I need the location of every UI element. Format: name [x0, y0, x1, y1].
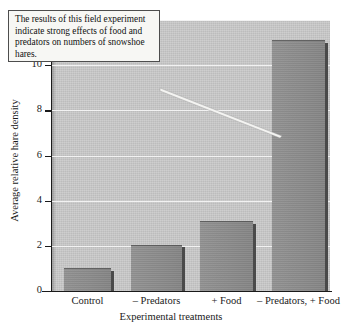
y-axis-tick: [45, 110, 52, 111]
bar-chart-figure: 024681012 Control– Predators+ Food– Pred…: [0, 0, 342, 330]
bar-top-edge: [272, 40, 325, 41]
bar-face: [272, 40, 325, 291]
x-axis-title: Experimental treatments: [0, 311, 342, 322]
bar: [131, 245, 182, 291]
bar-side-shadow: [253, 224, 256, 292]
bar-top-edge: [200, 221, 253, 222]
bar-face: [64, 268, 111, 291]
y-axis-tick-label: 0: [2, 285, 42, 296]
bar-side-shadow: [182, 247, 185, 291]
y-axis-title: Average relative hare density: [9, 61, 20, 261]
bar: [200, 221, 253, 291]
y-axis-tick: [45, 291, 52, 292]
y-axis-tick: [45, 246, 52, 247]
bar-top-edge: [131, 245, 182, 246]
x-axis-line: [42, 291, 332, 292]
y-axis-tick: [45, 201, 52, 202]
bar-face: [200, 221, 253, 291]
bar-side-shadow: [111, 271, 114, 291]
y-axis-tick: [45, 156, 52, 157]
annotation-callout: The results of this field experiment ind…: [8, 10, 160, 62]
y-axis-tick: [45, 65, 52, 66]
annotation-text: The results of this field experiment ind…: [15, 14, 154, 60]
bar-side-shadow: [325, 43, 328, 291]
bar-top-edge: [64, 268, 111, 269]
bar: [64, 268, 111, 291]
bar: [272, 40, 325, 291]
bar-face: [131, 245, 182, 291]
x-axis-tick-label: – Predators, + Food: [239, 295, 342, 307]
